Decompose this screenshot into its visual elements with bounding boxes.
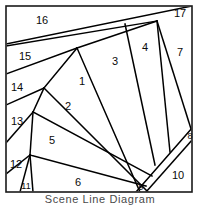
region-label-12: 12	[10, 158, 22, 170]
region-label-17: 17	[174, 7, 186, 19]
region-label-9: 9	[138, 182, 143, 192]
region-label-10: 10	[172, 169, 184, 181]
region-label-14: 14	[11, 81, 23, 93]
scene-line-diagram-figure: 1234567891011121314151617 Scene Line Dia…	[0, 0, 200, 205]
region-label-5: 5	[49, 134, 55, 146]
figure-caption: Scene Line Diagram	[0, 193, 200, 205]
region-label-1: 1	[79, 75, 85, 87]
diagram-canvas: 1234567891011121314151617	[0, 0, 200, 205]
region-label-15: 15	[19, 50, 31, 62]
region-label-8: 8	[187, 131, 192, 141]
region-label-13: 13	[11, 115, 23, 127]
region-label-2: 2	[65, 100, 71, 112]
region-label-11: 11	[21, 181, 30, 191]
region-label-7: 7	[177, 46, 183, 58]
region-label-3: 3	[112, 55, 118, 67]
region-label-6: 6	[75, 176, 81, 188]
region-label-4: 4	[142, 41, 148, 53]
region-label-16: 16	[36, 14, 48, 26]
